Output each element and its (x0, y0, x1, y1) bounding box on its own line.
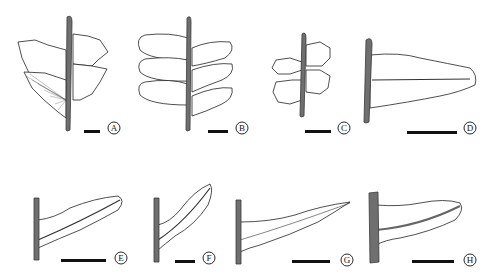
panel-f: F (154, 184, 215, 264)
rachis (34, 198, 39, 260)
scale-bar (175, 260, 195, 263)
rachis (66, 16, 72, 131)
panel-c: C (272, 33, 350, 134)
panel-label: C (341, 123, 347, 133)
rachis (300, 33, 306, 117)
panel-label: D (467, 123, 474, 133)
panel-g: G (236, 200, 353, 266)
rachis (186, 17, 191, 131)
panel-label: G (344, 255, 351, 265)
panel-d: D (364, 39, 476, 134)
panel-b: B (138, 17, 248, 134)
panel-label: A (111, 123, 118, 133)
rachis (236, 200, 241, 264)
panel-label: E (118, 253, 124, 263)
rachis (364, 39, 372, 123)
rachis (154, 198, 159, 262)
panel-label: H (467, 255, 474, 265)
panel-a: A (18, 16, 120, 134)
panel-e: E (34, 196, 127, 264)
scale-bar (305, 130, 331, 133)
scale-bar (61, 259, 106, 262)
scale-bar (407, 131, 457, 134)
panel-label: F (206, 253, 211, 263)
figure: A B C D E (0, 0, 488, 277)
scale-bar (84, 130, 100, 133)
scale-bar (292, 260, 330, 263)
scale-bar (208, 130, 228, 133)
scale-bar (412, 260, 454, 263)
panel-label: B (239, 123, 245, 133)
rachis (369, 192, 379, 263)
panel-h: H (369, 192, 476, 266)
